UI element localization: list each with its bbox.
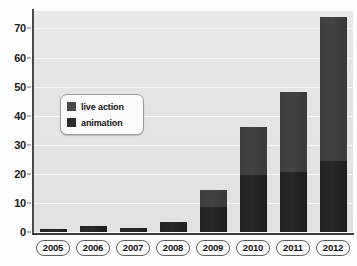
x-axis-category-2011: 2011 [276,240,310,256]
bar-segment-live-action [200,207,227,232]
bar-group [240,127,267,232]
x-axis-labels: 20052006200720082009201020112012 [33,240,353,262]
x-axis-category-2007: 2007 [116,240,150,256]
x-axis-category-2006: 2006 [76,240,110,256]
bar-group [80,226,107,232]
bar-segment-live-action [240,175,267,232]
y-axis-tick-label: 70 [0,22,26,34]
bar-group [200,190,227,232]
y-axis-tick-label: 10 [0,197,26,209]
x-axis-category-2005: 2005 [36,240,70,256]
y-axis-line [32,9,34,235]
y-axis-tick-mark [27,232,31,233]
bar-segment-animation [240,127,267,175]
gridline [33,58,353,59]
y-axis-tick-label: 30 [0,139,26,151]
legend-item: live action [67,100,137,113]
bar-group [160,222,187,232]
x-axis-category-2010: 2010 [236,240,270,256]
bar-group [320,17,347,232]
bar-group [280,92,307,232]
legend-label: animation [81,118,123,128]
legend-label: live action [81,102,124,112]
gridline [33,28,353,29]
gridline [33,87,353,88]
y-axis-tick-mark [27,202,31,203]
x-axis-category-2009: 2009 [196,240,230,256]
y-axis-tick-mark [27,57,31,58]
bar-chart: 010203040506070 live actionanimation 200… [0,0,357,266]
bar-segment-animation [320,17,347,161]
y-axis-tick-mark [27,86,31,87]
bar-group [120,228,147,232]
x-axis-category-2008: 2008 [156,240,190,256]
bar-segment-live-action [40,229,67,232]
y-axis-tick-mark [27,173,31,174]
bar-group [40,229,67,232]
bar-segment-live-action [320,161,347,232]
legend-swatch-icon [67,118,76,127]
y-axis-tick-label: 20 [0,168,26,180]
chart-legend: live actionanimation [60,94,144,135]
y-axis-tick-mark [27,28,31,29]
bar-segment-live-action [280,172,307,232]
bar-segment-animation [280,92,307,172]
y-axis-tick-label: 60 [0,52,26,64]
bar-segment-live-action [80,226,107,232]
bar-segment-live-action [120,228,147,232]
y-axis-tick-mark [27,115,31,116]
x-axis-category-2012: 2012 [316,240,350,256]
y-axis-tick-label: 0 [0,226,26,238]
x-axis-line [32,233,354,235]
bar-segment-animation [200,190,227,207]
y-axis-labels: 010203040506070 [0,0,26,266]
y-axis-tick-mark [27,144,31,145]
legend-item: animation [67,116,137,129]
legend-swatch-icon [67,102,76,111]
bar-segment-live-action [160,222,187,232]
y-axis-tick-label: 50 [0,81,26,93]
y-axis-tick-label: 40 [0,110,26,122]
